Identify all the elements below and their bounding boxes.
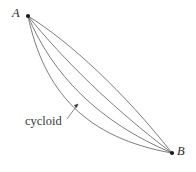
figure-canvas [0,0,196,172]
endpoint-dots [26,14,174,155]
point-b-dot [170,151,174,155]
cycloid-annotation-label: cycloid [25,115,62,128]
curve-shallow-1 [28,16,172,153]
point-a-label: A [12,7,20,20]
curve-2 [28,16,172,153]
cycloid-arrowhead-icon [74,104,78,108]
curve-3 [28,16,172,153]
cycloid-figure: A B cycloid [0,0,196,172]
point-a-dot [26,14,30,18]
point-b-label: B [177,145,185,158]
curve-group [28,16,172,153]
curve-cycloid [28,16,172,153]
